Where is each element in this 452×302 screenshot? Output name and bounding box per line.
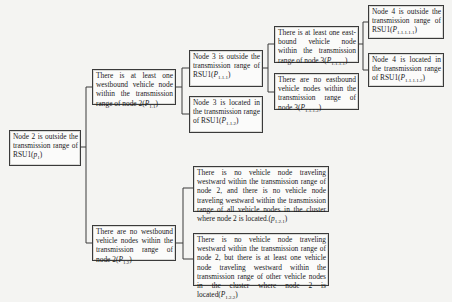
node-label-sub: 1.1.1.1.1 — [397, 30, 415, 35]
node-text: Node 2 is outside the transmission range… — [13, 132, 78, 159]
paren-close: ) — [155, 99, 157, 108]
node-label-sub: 1.1.1.1.2 — [405, 78, 423, 83]
paren-close: ) — [235, 290, 237, 299]
connector-root — [80, 87, 92, 243]
paren-close: ) — [345, 56, 347, 65]
node-label-sub: 1.1.1 — [218, 75, 228, 80]
node-label-sub: 1.1.1.1 — [331, 60, 345, 65]
paren-close: ) — [228, 70, 230, 79]
node-p1-1-1: Node 3 is outside the transmission range… — [189, 50, 263, 87]
node-p1-2-2: There is no vehicle node traveling westw… — [193, 233, 329, 286]
connector-p12 — [175, 188, 193, 259]
node-p1-1-1-1-1: Node 4 is outside the transmission range… — [368, 5, 444, 39]
node-label-sub: 1.1.1.2 — [305, 107, 319, 112]
node-text: There is at least one westbound vehicle … — [96, 71, 173, 108]
paren-close: ) — [415, 25, 417, 34]
paren-close: ) — [319, 103, 321, 112]
node-p1-2: There are no westbound vehicle nodes wit… — [92, 225, 176, 261]
node-label-sub: 1.2.2 — [225, 295, 235, 300]
paren-close: ) — [423, 73, 425, 82]
paren-close: ) — [129, 255, 131, 264]
node-p1-1-1-1-2: Node 4 is located in the transmission ra… — [368, 53, 444, 87]
node-text: There is no vehicle node traveling westw… — [197, 235, 326, 299]
node-label-sub: 1.1.2 — [226, 121, 236, 126]
node-p1-2-1: There is no vehicle node traveling westw… — [193, 166, 329, 212]
node-text: There are no westbound vehicle nodes wit… — [96, 227, 173, 264]
node-p1-1-1-2: There are no eastbound vehicle nodes wit… — [274, 73, 359, 110]
connector-p111 — [262, 44, 274, 92]
node-root: Node 2 is outside the transmission range… — [9, 130, 81, 166]
node-label-sub: 1.2.1 — [275, 219, 285, 224]
paren-close: ) — [40, 150, 42, 159]
node-p1-1-2: Node 3 is located in the transmission ra… — [189, 96, 263, 133]
connector-p1111 — [358, 22, 368, 70]
node-p1-1: There is at least one westbound vehicle … — [92, 69, 176, 105]
paren-close: ) — [236, 116, 238, 125]
connector-p11 — [175, 68, 189, 114]
paren-close: ) — [285, 214, 287, 223]
node-p1-1-1-1: There is at least one east-bound vehicle… — [274, 26, 359, 63]
